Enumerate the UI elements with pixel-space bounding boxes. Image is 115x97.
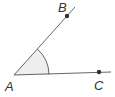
angle-arc-fill [14,49,49,75]
label-b: B [58,1,67,14]
point-c [97,70,101,74]
label-c: C [94,79,103,92]
angle-diagram: A B C [0,0,115,97]
label-a: A [5,80,14,93]
